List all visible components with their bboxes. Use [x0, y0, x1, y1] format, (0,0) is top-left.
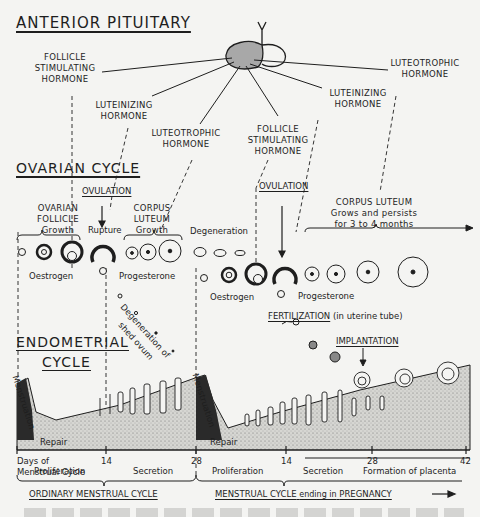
- implantation-arrow: [360, 348, 366, 366]
- label-corpus-luteum: CORPUSLUTEUMGrowth: [124, 203, 180, 236]
- label-corpus-luteum-2: CORPUS LUTEUMGrows and persistsfor 3 to …: [318, 197, 430, 230]
- title-anterior-pituitary: ANTERIOR PITUITARY: [16, 14, 191, 32]
- title-endometrial-line1: ENDOMETRIAL: [16, 334, 129, 351]
- label-ltr-1: LUTEOTROPHICHORMONE: [146, 128, 226, 150]
- label-oestrogen-1: Oestrogen: [29, 271, 73, 281]
- label-rupture: Rupture: [88, 225, 122, 235]
- label-ovulation-2: OVULATION: [259, 181, 308, 191]
- title-ovarian-cycle: OVARIAN CYCLE: [16, 160, 140, 176]
- tick-14-a: 14: [101, 456, 112, 466]
- phase-proliferation-1: Proliferation: [34, 466, 85, 476]
- tick-28-a: 28: [191, 456, 202, 466]
- label-progesterone-2: Progesterone: [298, 291, 354, 301]
- label-fsh-2: FOLLICLESTIMULATINGHORMONE: [238, 124, 318, 157]
- label-implantation: IMPLANTATION: [336, 336, 399, 346]
- label-repair-1: Repair: [40, 437, 67, 447]
- label-lh-2: LUTEINIZINGHORMONE: [318, 88, 398, 110]
- tick-14-b: 14: [281, 456, 292, 466]
- title-endometrial-line2: CYCLE: [42, 354, 91, 371]
- tick-28-b: 28: [367, 456, 378, 466]
- phase-secretion-2: Secretion: [303, 466, 343, 476]
- label-progesterone-1: Progesterone: [119, 271, 175, 281]
- label-ovulation-1: OVULATION: [82, 186, 131, 196]
- figure-caption-cropped: [24, 508, 464, 517]
- label-pregnancy-cycle: MENSTRUAL CYCLE ending in PREGNANCY: [215, 489, 392, 499]
- label-ordinary-cycle: ORDINARY MENSTRUAL CYCLE: [29, 489, 158, 499]
- label-oestrogen-2: Oestrogen: [210, 292, 254, 302]
- label-degeneration: Degeneration: [190, 226, 248, 236]
- label-fertilization: FERTILIZATION (in uterine tube): [268, 311, 402, 321]
- phase-proliferation-2: Proliferation: [212, 466, 263, 476]
- phase-formation-of-placenta: Formation of placenta: [363, 466, 456, 476]
- label-ltr-2: LUTEOTROPHICHORMONE: [380, 58, 470, 80]
- phase-secretion-1: Secretion: [133, 466, 173, 476]
- tick-42: 42: [460, 456, 471, 466]
- label-fsh-1: FOLLICLESTIMULATINGHORMONE: [20, 52, 110, 85]
- label-lh-1: LUTEINIZINGHORMONE: [84, 100, 164, 122]
- follicles-row-2: [201, 257, 429, 362]
- label-ovarian-follicle: OVARIANFOLLICLEGrowth: [30, 203, 86, 236]
- continuation-arrow-icon: [432, 491, 455, 497]
- label-repair-2: Repair: [210, 437, 237, 447]
